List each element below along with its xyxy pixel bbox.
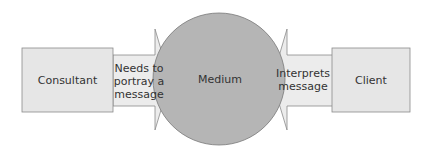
interprets-message-line-1: Interprets (276, 67, 330, 80)
needs-to-portray-line-3: message (114, 88, 163, 101)
interprets-message-line-2: message (278, 80, 327, 93)
needs-to-portray-line-1: Needs to (114, 62, 163, 75)
interprets-message-label: Interprets message (272, 60, 334, 100)
medium-label: Medium (170, 66, 270, 92)
needs-to-portray-line-2: portray a (114, 75, 165, 88)
needs-to-portray-label: Needs to portray a message (113, 58, 165, 104)
client-label: Client (332, 48, 410, 112)
consultant-label: Consultant (22, 48, 113, 112)
